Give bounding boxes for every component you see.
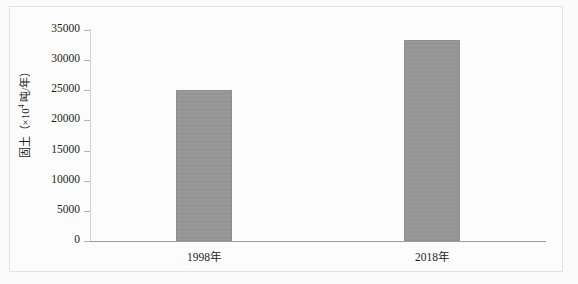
plot-area bbox=[90, 30, 546, 241]
y-axis-tick-label: 0 bbox=[18, 233, 80, 245]
bar bbox=[176, 90, 232, 241]
y-axis-tick-label: 10000 bbox=[18, 173, 80, 185]
y-axis-tick-label: 15000 bbox=[18, 143, 80, 155]
y-axis-tick-label: 25000 bbox=[18, 82, 80, 94]
y-axis-tick-label: 5000 bbox=[18, 203, 80, 215]
x-axis-category-label: 2018年 bbox=[372, 248, 492, 264]
x-axis-category-label: 1998年 bbox=[144, 248, 264, 264]
y-axis-tick-label: 35000 bbox=[18, 22, 80, 34]
x-axis-line bbox=[90, 241, 546, 242]
chart-figure: 固土（×104 吨/年） 050001000015000200002500030… bbox=[0, 0, 578, 284]
y-axis-title-exponent: 4 bbox=[17, 104, 26, 108]
bar bbox=[404, 40, 460, 241]
y-axis-tick-label: 30000 bbox=[18, 52, 80, 64]
y-axis-tick-label: 20000 bbox=[18, 112, 80, 124]
